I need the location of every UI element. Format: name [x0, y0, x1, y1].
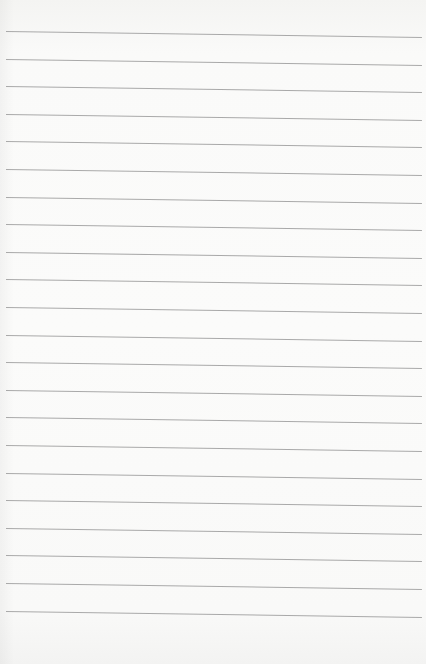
ruled-line	[6, 528, 422, 535]
ruled-line	[6, 114, 422, 121]
ruled-line	[6, 500, 422, 507]
ruled-line	[6, 445, 422, 452]
ruled-line	[6, 224, 422, 231]
ruled-line	[6, 390, 422, 397]
lined-paper-sheet	[0, 0, 426, 664]
ruled-line	[6, 417, 422, 424]
ruled-lines	[0, 0, 426, 664]
ruled-line	[6, 279, 422, 286]
ruled-line	[6, 473, 422, 480]
ruled-line	[6, 31, 422, 38]
ruled-line	[6, 141, 422, 148]
ruled-line	[6, 307, 422, 314]
ruled-line	[6, 197, 422, 204]
ruled-line	[6, 59, 422, 66]
ruled-line	[6, 555, 422, 562]
ruled-line	[6, 252, 422, 259]
ruled-line	[6, 335, 422, 342]
ruled-line	[6, 362, 422, 369]
ruled-line	[6, 86, 422, 93]
ruled-line	[6, 169, 422, 176]
ruled-line	[6, 611, 422, 618]
ruled-line	[6, 583, 422, 590]
